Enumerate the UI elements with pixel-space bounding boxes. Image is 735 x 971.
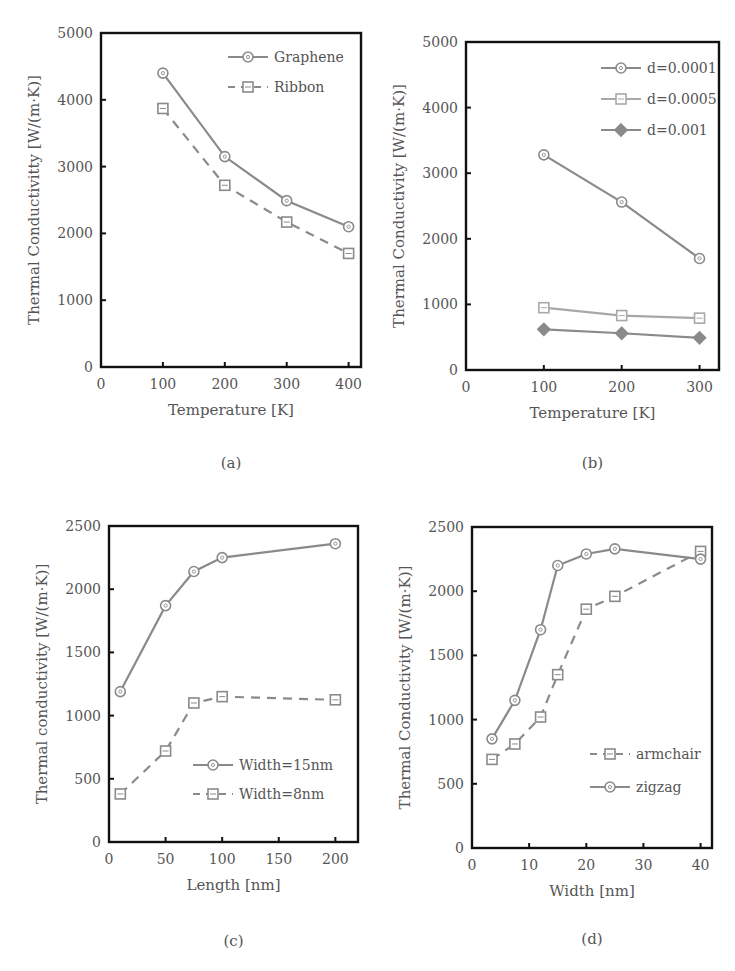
circle-marker-icon (553, 561, 563, 571)
circle-marker-icon (115, 687, 125, 697)
y-tick-label: 5000 (422, 34, 458, 50)
x-axis-title: Temperature [K] (168, 401, 294, 419)
y-tick-label: 2500 (428, 519, 464, 535)
panel-caption: (a) (221, 454, 242, 472)
legend-label: d=0.001 (647, 122, 708, 138)
x-tick-label: 10 (520, 857, 538, 873)
circle-marker-icon (282, 196, 292, 206)
chart-panel-b: 0100200300010002000300040005000Temperatu… (390, 34, 719, 472)
circle-marker-icon (539, 150, 549, 160)
circle-marker-icon (344, 222, 354, 232)
legend-label: Graphene (274, 49, 344, 65)
y-tick-label: 2000 (422, 231, 458, 247)
y-tick-label: 1000 (65, 708, 101, 724)
y-tick-label: 1000 (422, 296, 458, 312)
y-tick-label: 0 (92, 834, 101, 850)
circle-marker-icon (217, 553, 227, 563)
legend-label: Width=15nm (239, 757, 333, 773)
legend-circle-icon (605, 782, 615, 792)
y-tick-label: 4000 (422, 100, 458, 116)
x-axis-title: Length [nm] (186, 876, 280, 894)
y-tick-label: 0 (449, 362, 458, 378)
y-tick-label: 5000 (57, 25, 93, 41)
x-tick-label: 0 (97, 376, 106, 392)
plot-frame (472, 527, 712, 848)
x-tick-label: 40 (692, 857, 710, 873)
panel-caption: (b) (582, 454, 603, 472)
y-tick-label: 1000 (57, 292, 93, 308)
x-tick-label: 200 (322, 851, 349, 867)
y-tick-label: 1500 (428, 647, 464, 663)
y-axis-title: Thermal conductivity [W/(m·K)] (33, 564, 51, 805)
x-tick-label: 100 (209, 851, 236, 867)
y-tick-label: 3000 (57, 159, 93, 175)
legend-label: armchair (636, 746, 701, 762)
diamond-marker-icon (694, 332, 706, 344)
circle-marker-icon (536, 625, 546, 635)
y-tick-label: 500 (74, 771, 101, 787)
legend-label: d=0.0001 (647, 60, 717, 76)
x-tick-label: 50 (157, 851, 175, 867)
x-tick-label: 300 (686, 379, 713, 395)
y-tick-label: 0 (455, 840, 464, 856)
x-axis-title: Width [nm] (549, 882, 635, 900)
circle-marker-icon (330, 539, 340, 549)
circle-marker-icon (695, 253, 705, 263)
circle-marker-icon (510, 695, 520, 705)
x-axis-title: Temperature [K] (530, 404, 656, 422)
legend-label: d=0.0005 (647, 91, 717, 107)
circle-marker-icon (220, 152, 230, 162)
x-tick-label: 20 (577, 857, 595, 873)
circle-marker-icon (610, 544, 620, 554)
y-tick-label: 2500 (65, 518, 101, 534)
circle-marker-icon (189, 567, 199, 577)
x-tick-label: 150 (265, 851, 292, 867)
legend-diamond-icon (615, 124, 627, 136)
x-tick-label: 0 (462, 379, 471, 395)
y-tick-label: 3000 (422, 165, 458, 181)
series-line-zigzag (492, 549, 701, 739)
y-axis-title: Thermal Conductivity [W/(m·K)] (390, 84, 408, 328)
circle-marker-icon (581, 549, 591, 559)
chart-panel-d: 01020304005001000150020002500Width [nm]T… (396, 519, 712, 948)
y-tick-label: 4000 (57, 92, 93, 108)
series-line-armchair (492, 551, 701, 759)
circle-marker-icon (161, 601, 171, 611)
legend-circle-icon (616, 63, 626, 73)
legend-circle-icon (208, 760, 218, 770)
legend-circle-icon (243, 52, 253, 62)
x-tick-label: 200 (211, 376, 238, 392)
y-axis-title: Thermal Conductivitty [W/(m·K)] (25, 75, 43, 325)
series-line-width-8nm (120, 697, 335, 794)
legend-label: Width=8nm (239, 786, 324, 802)
legend-label: zigzag (636, 779, 682, 795)
x-tick-label: 200 (608, 379, 635, 395)
chart-panel-a: 0100200300400010002000300040005000Temper… (25, 25, 362, 472)
series-line-width-15nm (120, 544, 335, 692)
x-tick-label: 0 (105, 851, 114, 867)
circle-marker-icon (158, 68, 168, 78)
y-tick-label: 1000 (428, 712, 464, 728)
x-tick-label: 100 (150, 376, 177, 392)
diamond-marker-icon (616, 327, 628, 339)
y-tick-label: 2000 (428, 583, 464, 599)
chart-panel-c: 05010015020005001000150020002500Length [… (33, 518, 358, 950)
circle-marker-icon (696, 554, 706, 564)
x-tick-label: 30 (635, 857, 653, 873)
y-tick-label: 1500 (65, 644, 101, 660)
panel-caption: (d) (581, 930, 602, 948)
y-axis-title: Thermal Conductivity [W/(m·K)] (396, 566, 414, 810)
legend-label: Ribbon (274, 79, 324, 95)
circle-marker-icon (487, 734, 497, 744)
x-tick-label: 0 (468, 857, 477, 873)
y-tick-label: 2000 (65, 581, 101, 597)
y-tick-label: 500 (437, 776, 464, 792)
panel-caption: (c) (223, 932, 243, 950)
x-tick-label: 300 (273, 376, 300, 392)
series-line-ribbon (163, 108, 349, 253)
figure-canvas: 0100200300400010002000300040005000Temper… (0, 0, 735, 971)
circle-marker-icon (617, 197, 627, 207)
y-tick-label: 2000 (57, 225, 93, 241)
x-tick-label: 100 (530, 379, 557, 395)
diamond-marker-icon (538, 323, 550, 335)
